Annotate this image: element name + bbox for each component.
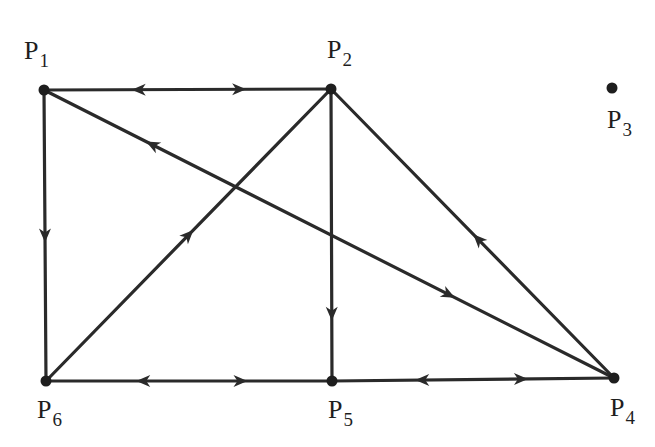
- node-label-letter: P: [327, 35, 341, 64]
- edge-p1-p4: [44, 90, 614, 378]
- node-label-p2: P2: [327, 37, 352, 63]
- node-label-subscript: 3: [622, 119, 632, 140]
- node-label-letter: P: [37, 395, 51, 424]
- node-label-subscript: 5: [343, 409, 353, 430]
- edges-layer: [44, 89, 614, 381]
- edge-p5-p4: [332, 378, 614, 381]
- node-p4: [609, 373, 620, 384]
- node-label-subscript: 2: [342, 49, 352, 70]
- arrowhead-icon: [440, 286, 458, 303]
- node-label-letter: P: [24, 36, 38, 65]
- node-label-letter: P: [610, 393, 624, 422]
- node-p2: [326, 84, 337, 95]
- node-label-p5: P5: [328, 397, 353, 423]
- edge-p4-p2: [331, 89, 614, 378]
- edge-p1-p2: [44, 89, 331, 90]
- node-p3: [607, 83, 618, 94]
- edge-p2-p5: [331, 89, 332, 381]
- arrowhead-icon: [143, 136, 161, 153]
- node-p5: [327, 376, 338, 387]
- directed-graph-diagram: [0, 0, 655, 447]
- node-p1: [39, 85, 50, 96]
- node-p6: [41, 376, 52, 387]
- arrows-layer: [39, 83, 528, 387]
- node-label-letter: P: [607, 105, 621, 134]
- node-label-subscript: 1: [39, 50, 49, 71]
- node-label-p3: P3: [607, 107, 632, 133]
- node-label-p4: P4: [610, 395, 635, 421]
- node-label-subscript: 6: [52, 409, 62, 430]
- node-label-p6: P6: [37, 397, 62, 423]
- node-label-letter: P: [328, 395, 342, 424]
- node-label-p1: P1: [24, 38, 49, 64]
- node-label-subscript: 4: [625, 407, 635, 428]
